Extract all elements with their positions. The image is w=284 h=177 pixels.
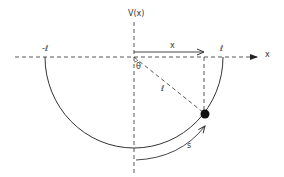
v-axis-label: V(x)	[128, 10, 144, 18]
pendulum-diagram: V(x) x -ℓ ℓ x θ ℓ s	[0, 0, 284, 177]
arc-length-label: s	[187, 142, 191, 150]
pendulum-mass	[201, 110, 210, 119]
length-label: ℓ	[161, 85, 164, 93]
right-end-label: ℓ	[220, 45, 223, 53]
left-end-label: -ℓ	[42, 45, 48, 53]
arc-length-arrow	[136, 126, 205, 160]
angle-label: θ	[136, 63, 141, 71]
x-axis-label: x	[265, 51, 270, 59]
diagram-canvas	[0, 0, 284, 177]
displacement-label: x	[170, 42, 175, 50]
pendulum-string	[134, 57, 204, 113]
